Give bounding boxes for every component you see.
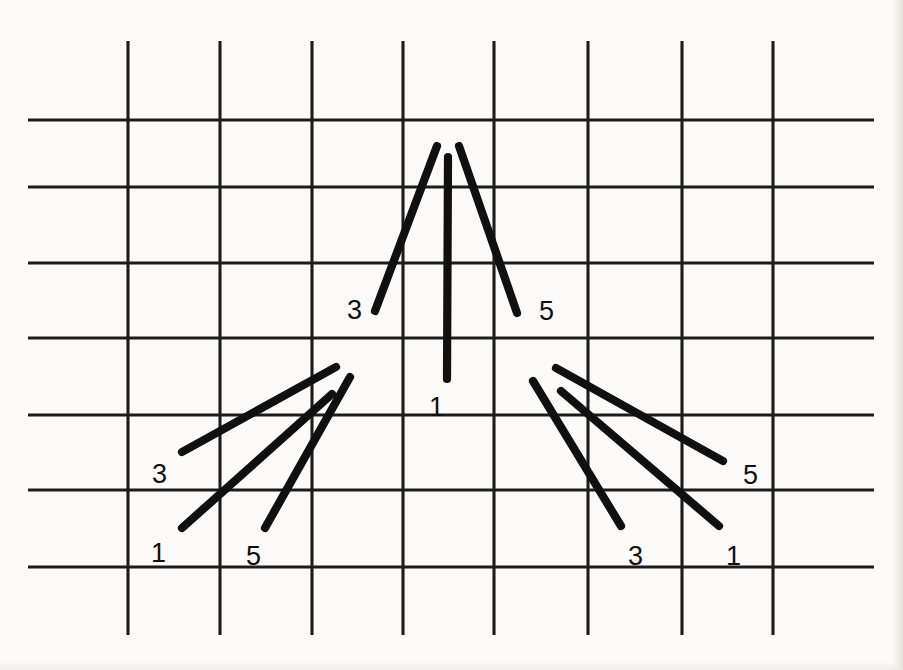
segment-group-right	[533, 368, 723, 526]
segment-label-left-3: 3	[152, 461, 167, 488]
segment-label-right-3: 3	[628, 543, 643, 570]
center-segment-3	[375, 146, 437, 311]
segment-group-center	[375, 146, 517, 379]
segment-label-right-1: 1	[726, 543, 741, 570]
center-segment-1	[447, 157, 448, 379]
segment-group-left	[182, 367, 350, 528]
segment-label-right-5: 5	[743, 462, 758, 489]
segment-label-center-5: 5	[539, 298, 554, 325]
center-segment-5	[459, 146, 517, 313]
figure-canvas: 351315531	[0, 0, 903, 670]
figure-svg	[0, 0, 903, 670]
segment-label-center-1: 1	[429, 394, 444, 421]
segment-label-center-3: 3	[347, 297, 362, 324]
segment-label-left-5: 5	[246, 543, 261, 570]
segment-label-left-1: 1	[151, 540, 166, 567]
